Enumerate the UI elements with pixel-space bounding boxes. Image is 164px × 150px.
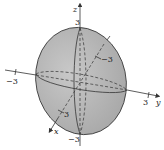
x-tick-neg-label: −3: [101, 55, 113, 64]
tick-y-pos: [148, 92, 149, 98]
y-axis-label: y: [155, 98, 161, 107]
z-axis-label: z: [72, 5, 78, 14]
ellipsoid-surface: [26, 19, 136, 143]
z-tick-pos-label: 3: [75, 18, 80, 27]
y-axis-positive: [127, 90, 158, 96]
y-tick-neg-label: −3: [6, 77, 18, 86]
z-tick-neg-label: −3: [68, 135, 80, 144]
tick-y-neg: [15, 69, 16, 75]
x-axis-label: x: [54, 127, 59, 136]
ellipsoid-diagram: z 3 −3 y 3 −3 x −3 3: [0, 0, 164, 150]
y-tick-pos-label: 3: [143, 98, 148, 107]
x-tick-pos-label: 3: [64, 110, 69, 119]
y-axis-negative: [5, 70, 36, 75]
